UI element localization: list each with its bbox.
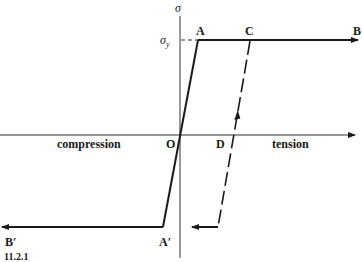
point-label-o: O [166,138,175,150]
point-label-a: A [196,25,205,37]
unloading-line [218,41,250,227]
y-axis-label: σ [175,2,181,14]
point-label-d: D [216,138,225,150]
figure-caption-fragment: 11.2.1 [4,252,28,262]
unloading-direction-arrow [234,110,240,120]
point-label-b: B [353,25,361,37]
point-label-c: C [245,25,254,37]
yield-stress-subscript: y [166,40,170,49]
compression-label: compression [57,138,121,150]
point-label-a-prime: A′ [159,236,171,248]
tension-label: tension [272,138,309,150]
yield-stress-label: σy [160,31,169,49]
point-label-b-prime: B′ [5,236,16,248]
